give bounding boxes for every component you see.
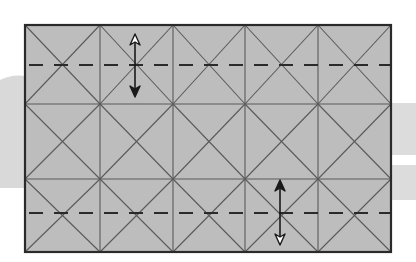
backdrop-band-right-lower bbox=[391, 165, 416, 200]
backdrop-band-right-upper bbox=[391, 103, 416, 155]
crease-pattern-figure bbox=[0, 0, 416, 262]
backdrop-band-left bbox=[0, 76, 25, 189]
origami-diagram bbox=[0, 0, 416, 262]
paper-square bbox=[25, 25, 391, 252]
